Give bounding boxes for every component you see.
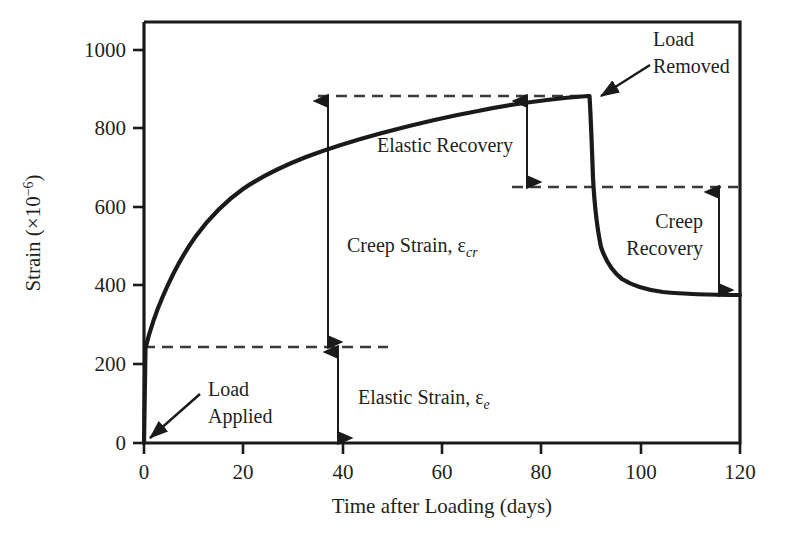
creep-recovery-label-line2: Recovery <box>626 237 703 260</box>
x-axis-title: Time after Loading (days) <box>332 494 552 518</box>
elastic-recovery-measure: Elastic Recovery <box>377 96 527 187</box>
elastic-recovery-label: Elastic Recovery <box>377 134 513 157</box>
creep-strain-chart: 1000 800 600 400 200 0 0 20 40 60 80 100… <box>0 0 794 536</box>
y-tick-label-600: 600 <box>95 195 127 219</box>
svg-text:Strain (×10−6): Strain (×10−6) <box>21 174 45 291</box>
creep-strain-subscript: cr <box>466 245 478 260</box>
y-axis-ticks <box>133 50 144 443</box>
y-tick-label-0: 0 <box>116 431 127 455</box>
elastic-strain-measure: Elastic Strain, εe <box>338 347 490 443</box>
y-tick-label-400: 400 <box>95 273 127 297</box>
x-tick-label-100: 100 <box>625 460 657 484</box>
creep-recovery-measure: Creep Recovery <box>626 187 719 295</box>
elastic-strain-symbol: ε <box>475 386 483 408</box>
y-tick-label-800: 800 <box>95 116 127 140</box>
load-removed-annotation: Load Removed <box>601 28 730 96</box>
y-axis-title: Strain (×10−6) <box>21 174 45 291</box>
load-removed-label-line1: Load <box>653 28 694 50</box>
load-removed-arrow <box>601 65 650 96</box>
creep-strain-label-text: Creep Strain, <box>347 234 458 257</box>
creep-strain-label: Creep Strain, εcr <box>347 234 478 260</box>
y-tick-label-200: 200 <box>95 352 127 376</box>
elastic-strain-subscript: e <box>484 397 490 412</box>
creep-recovery-label-line1: Creep <box>655 210 703 233</box>
creep-strain-figure: 1000 800 600 400 200 0 0 20 40 60 80 100… <box>0 0 794 536</box>
creep-strain-symbol: ε <box>458 234 466 256</box>
x-tick-label-20: 20 <box>233 460 254 484</box>
elastic-strain-label: Elastic Strain, εe <box>358 386 490 412</box>
y-axis-title-main: Strain (×10 <box>21 196 45 291</box>
elastic-strain-label-text: Elastic Strain, <box>358 386 475 408</box>
x-tick-label-60: 60 <box>432 460 453 484</box>
x-tick-label-120: 120 <box>724 460 756 484</box>
load-applied-arrow <box>150 394 200 438</box>
y-tick-label-1000: 1000 <box>84 38 126 62</box>
x-axis-ticks <box>144 443 740 454</box>
x-tick-label-80: 80 <box>531 460 552 484</box>
x-axis-tick-labels: 0 20 40 60 80 100 120 <box>139 460 756 484</box>
load-removed-label-line2: Removed <box>653 55 730 77</box>
y-axis-title-close: ) <box>21 174 45 181</box>
x-tick-label-0: 0 <box>139 460 150 484</box>
load-applied-annotation: Load Applied <box>150 378 272 438</box>
load-applied-label-line1: Load <box>208 378 249 400</box>
y-axis-tick-labels: 1000 800 600 400 200 0 <box>84 38 126 455</box>
y-axis-title-exponent: −6 <box>21 181 36 196</box>
x-tick-label-40: 40 <box>333 460 354 484</box>
load-applied-label-line2: Applied <box>208 405 272 428</box>
